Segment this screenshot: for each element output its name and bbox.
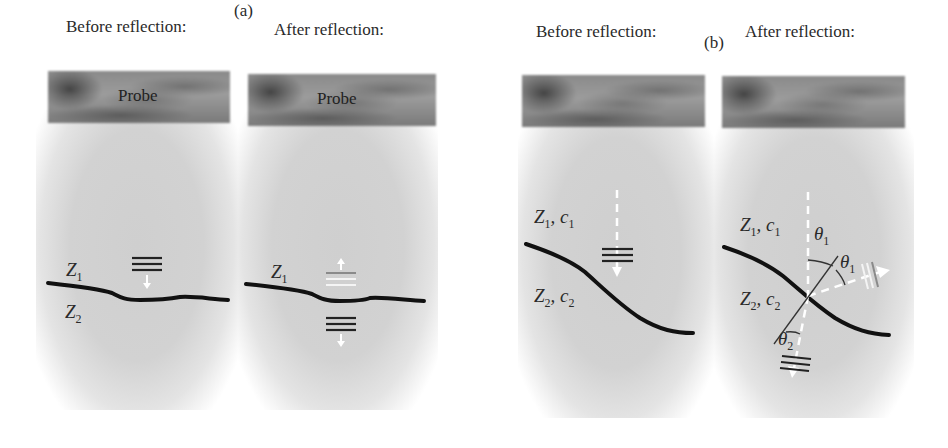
reflected-angle-arc <box>836 270 845 285</box>
label-z1-a-before: Z1 <box>66 259 83 284</box>
down-arrow-icon <box>337 334 345 347</box>
down-arrow-icon <box>788 366 799 378</box>
transmitted-wavefront-a-after <box>326 318 356 330</box>
interface-line-a-before <box>48 283 228 300</box>
reflected-wavefront-b-after <box>862 262 878 289</box>
down-arrow-icon <box>143 275 151 289</box>
diagram-overlay: Z1 Z2 Z1 Z1, c1 Z2, c2 <box>0 0 948 448</box>
label-z1c1-b-after: Z1, c1 <box>740 214 781 239</box>
down-arrow-icon <box>612 267 622 277</box>
label-z2c2-b-after: Z2, c2 <box>740 288 781 313</box>
label-theta1-incident: θ1 <box>814 223 829 248</box>
up-down-arrow-icon <box>337 258 345 270</box>
interface-line-a-after <box>246 284 424 301</box>
transmitted-angle-arc <box>786 332 800 334</box>
label-z2c2-b-before: Z2, c2 <box>534 285 575 310</box>
incident-angle-arc <box>808 260 833 266</box>
reflected-wavefront-a-after <box>326 273 356 285</box>
label-z1c1-b-before: Z1, c1 <box>534 206 575 231</box>
transmitted-wavefront-b-after <box>780 356 811 371</box>
right-arrow-icon <box>876 266 890 278</box>
incident-wavefront-a-before <box>132 258 162 270</box>
label-z1-a-after: Z1 <box>271 261 288 286</box>
label-z2-a-before: Z2 <box>65 301 82 326</box>
label-theta1-reflected: θ1 <box>840 251 855 276</box>
